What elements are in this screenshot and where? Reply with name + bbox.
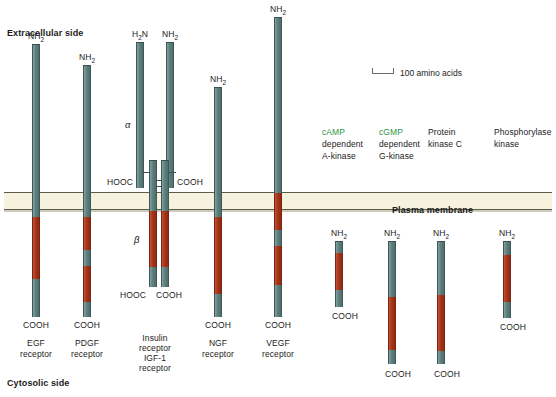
igf1-receptor-name-line2: receptor [139,363,171,374]
ngf-receptor-name-line2: receptor [202,349,234,360]
cytosolic-side-label: Cytosolic side [7,378,69,389]
scale-bar-label: 100 amino acids [400,68,462,78]
vegf-c-terminus-label: COOH [265,320,291,331]
phosphorylase-kinase-c-domain [503,302,511,318]
camp-a-kinase-c-domain [335,290,343,307]
insulin-alpha-right-c-terminus-label: COOH [177,177,203,188]
insulin-alpha-left-c-terminus-label: HOOC [107,177,133,188]
insulin-alpha-subunit-symbol: α [125,120,131,131]
vegf-kinase-insert-domain [274,230,282,246]
insulin-beta-right-c-tail-domain [161,267,169,287]
pdgf-receptor-chain [83,65,91,316]
insulin-receptor-name-line2: receptor [139,343,171,354]
protein-kinase-c-name-line2: kinase C [428,139,462,150]
camp-a-kinase-name-line1: cAMP [322,127,345,138]
cgmp-g-kinase-n-regulatory-domain [388,242,396,297]
camp-a-kinase-n-domain [335,242,343,253]
pdgf-c-tail-domain [83,302,91,317]
egf-receptor-chain [32,44,40,316]
insulin-receptor-name-line1: Insulin [142,333,167,344]
insulin-beta-chain-left [149,160,157,286]
pdgf-kinase-insert-domain [83,250,91,266]
vegf-c-tail-domain [274,285,282,317]
egf-receptor-name-line1: EGF [27,338,45,349]
camp-a-kinase-catalytic-domain [335,253,343,290]
ngf-receptor-chain [214,87,222,316]
insulin-beta-right-kinase-domain [161,211,169,267]
vegf-extracellular-domain [274,18,282,175]
insulin-beta-chain-right [161,160,169,286]
pdgf-receptor-name-line1: PDGF [75,338,99,349]
insulin-beta-left-kinase-domain [149,211,157,267]
ngf-extracellular-domain [214,88,222,199]
insulin-beta-right-extracellular-domain [161,161,169,193]
camp-a-kinase-name-line3: A-kinase [322,151,356,162]
protein-kinase-c-c-domain [437,351,445,364]
insulin-alpha-chain-left [136,42,144,187]
ngf-c-tail-domain [214,294,222,317]
igf1-receptor-name-line1: IGF-1 [144,353,166,364]
phosphorylase-kinase-catalytic-domain [503,255,511,302]
insulin-beta-right-c-terminus-label: COOH [156,290,182,301]
vegf-kinase-domain-part1 [274,193,282,230]
phosphorylase-kinase-c-terminus-label: COOH [500,322,526,333]
pdgf-kinase-domain-part2 [83,266,91,302]
protein-kinase-c-catalytic-domain [437,295,445,351]
ngf-receptor-name-line1: NGF [209,338,227,349]
camp-a-kinase-name-line2: dependent [322,139,363,150]
insulin-beta-left-extracellular-domain [149,161,157,193]
egf-extracellular-domain [32,45,40,199]
cgmp-g-kinase-c-domain [388,350,396,364]
vegf-receptor-name-line1: VEGF [266,338,290,349]
insulin-disulfide-link-center [156,180,162,181]
ngf-c-terminus-label: COOH [205,320,231,331]
scale-bar [372,68,394,74]
pdgf-kinase-domain-part1 [83,217,91,250]
egf-receptor-name-line2: receptor [20,349,52,360]
egf-kinase-domain [32,217,40,279]
insulin-beta-subunit-symbol: β [134,235,140,246]
cgmp-g-kinase-name-line1: cGMP [379,127,403,138]
cgmp-g-kinase-chain [388,241,396,363]
egf-c-terminus-label: COOH [23,320,49,331]
egf-c-tail-domain [32,279,40,317]
phosphorylase-kinase-name-line2: kinase [494,139,519,150]
ngf-kinase-domain [214,217,222,294]
protein-kinase-c-c-terminus-label: COOH [434,369,460,380]
insulin-beta-left-c-tail-domain [149,267,157,287]
vegf-receptor-name-line2: receptor [262,349,294,360]
vegf-kinase-domain-part2 [274,246,282,285]
pdgf-receptor-name-line2: receptor [71,349,103,360]
insulin-alpha-left-domain [136,43,144,188]
pdgf-transmembrane-domain [83,199,91,217]
cgmp-g-kinase-name-line3: G-kinase [379,151,414,162]
pdgf-extracellular-domain [83,66,91,199]
ngf-transmembrane-domain [214,199,222,217]
insulin-beta-right-transmembrane-domain [161,193,169,211]
protein-kinase-c-chain [437,241,445,363]
protein-kinase-c-n-regulatory-domain [437,242,445,295]
insulin-beta-left-c-terminus-label: HOOC [120,290,146,301]
vegf-transmembrane-domain [274,175,282,193]
insulin-disulfide-link-center-lower [156,186,162,187]
plasma-membrane-label: Plasma membrane [392,205,473,216]
insulin-beta-left-transmembrane-domain [149,193,157,211]
insulin-disulfide-link-left-upper [142,172,150,173]
receptor-tyrosine-kinase-diagram: Extracellular side Cytosolic side Plasma… [0,0,556,397]
egf-transmembrane-domain [32,199,40,217]
camp-a-kinase-c-terminus-label: COOH [332,311,358,322]
phosphorylase-kinase-n-domain [503,242,511,255]
pdgf-c-terminus-label: COOH [74,320,100,331]
protein-kinase-c-name-line1: Protein [428,127,456,138]
insulin-disulfide-link-right-upper [168,172,176,173]
phosphorylase-kinase-name-line1: Phosphorylase [494,127,552,138]
cgmp-g-kinase-catalytic-domain [388,297,396,350]
camp-a-kinase-chain [335,241,343,306]
vegf-receptor-chain [274,17,282,316]
cgmp-g-kinase-name-line2: dependent [379,139,420,150]
phosphorylase-kinase-chain [503,241,511,317]
extracellular-side-label: Extracellular side [7,28,83,39]
cgmp-g-kinase-c-terminus-label: COOH [385,369,411,380]
